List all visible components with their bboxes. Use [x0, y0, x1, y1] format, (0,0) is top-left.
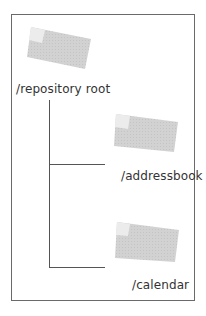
folder-icon	[112, 110, 180, 156]
branch-line-addressbook	[49, 164, 105, 165]
tree-trunk-line	[49, 100, 50, 268]
folder-icon	[113, 220, 181, 266]
node-label-calendar: /calendar	[132, 278, 189, 292]
branch-line-calendar	[49, 267, 105, 268]
folder-icon	[25, 25, 93, 71]
node-label-addressbook: /addressbook	[121, 169, 203, 183]
node-label-root: /repository root	[16, 82, 110, 96]
